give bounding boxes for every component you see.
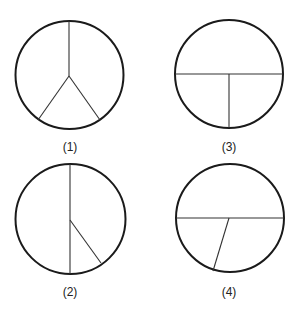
radius-line-lower-left [38,76,69,120]
diagram-canvas [0,0,299,313]
diagram-label-3: (3) [222,140,237,154]
radius-line-lower-right [70,220,101,263]
circle-diagram-3 [175,20,283,128]
circle-diagram-1 [16,21,124,129]
circle-diagram-4 [176,164,284,272]
diagram-label-4: (4) [222,285,237,299]
radius-line-lower-left [213,218,229,271]
diagram-label-1: (1) [63,140,78,154]
diagram-label-2: (2) [63,285,78,299]
radius-line-lower-right [69,76,100,120]
circle-diagram-2 [16,164,126,274]
